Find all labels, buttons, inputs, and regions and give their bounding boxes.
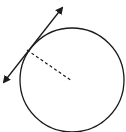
tangent-circle-diagram [0, 0, 126, 132]
tangent-line [4, 8, 62, 82]
radius-dashed-line [27, 50, 72, 81]
circle [20, 28, 124, 132]
